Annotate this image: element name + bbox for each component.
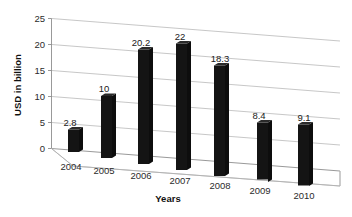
data-label-2008: 18.3 [211,53,230,64]
xtick-label-2009: 2009 [249,185,270,196]
data-label-2006: 20.2 [132,37,151,48]
bar-2005 [101,94,116,159]
bar-2008 [214,63,229,176]
bar-2004 [68,127,83,152]
y-axis-title: USD in billion [12,54,23,116]
bar-front-2005 [101,96,112,158]
xtick-label-2010: 2010 [293,190,314,201]
ytick-label-25: 25 [34,13,45,24]
bar-2007 [176,41,191,170]
data-label-2009: 8.4 [252,110,265,121]
data-label-2010: 9.1 [297,112,310,123]
xtick-label-2004: 2004 [60,161,81,172]
bar-front-2004 [68,130,79,153]
gridline-20 [52,45,341,68]
bar-side-2007 [187,41,191,170]
xtick-label-2006: 2006 [130,170,151,181]
gridline-25 [52,19,341,42]
ytick-label-5: 5 [40,117,45,128]
bar-side-2006 [149,47,153,164]
bar-side-2004 [79,127,83,152]
xtick-label-2005: 2005 [93,165,114,176]
data-label-2005: 10 [99,83,110,94]
bar-side-2010 [309,122,313,186]
bar-front-2009 [257,123,268,180]
xtick-label-2008: 2008 [209,180,230,191]
xtick-label-2007: 2007 [169,175,190,186]
ytick-label-10: 10 [34,91,45,102]
bar-front-2010 [298,125,309,186]
gridlines [52,19,341,146]
bar-front-2007 [176,44,187,171]
ytick-label-15: 15 [34,65,45,76]
value-axis-ticks [48,19,52,149]
bar-2006 [138,47,153,164]
bar-side-2008 [225,63,229,176]
ytick-label-0: 0 [40,143,45,154]
bar-front-2006 [138,50,149,165]
bar-2009 [257,120,272,182]
chart-canvas: 25 20 15 10 5 0 2.8 10 20.2 22 18.3 8.4 … [0,0,352,217]
x-axis-title: Years [155,193,180,204]
data-label-2004: 2.8 [63,117,76,128]
bar-front-2008 [214,66,225,177]
data-label-2007: 22 [175,31,186,42]
gridline-5 [52,123,341,146]
gridline-15 [52,71,341,94]
bar-side-2009 [268,120,272,182]
bar-side-2005 [112,94,116,159]
ytick-label-20: 20 [34,39,45,50]
bar-chart: 25 20 15 10 5 0 2.8 10 20.2 22 18.3 8.4 … [0,0,352,217]
bar-2010 [298,122,313,186]
value-axis-labels: 25 20 15 10 5 0 [34,13,45,154]
